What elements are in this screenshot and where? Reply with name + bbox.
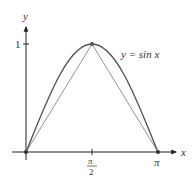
y-tick-label-1: 1 — [15, 38, 21, 50]
sine-curve — [26, 44, 158, 152]
sine-diagram: y x 1 π 2 π y = sin x — [0, 0, 195, 179]
x-axis-label: x — [180, 146, 186, 158]
x-tick-label-pi: π — [154, 156, 160, 168]
x-tick-label-half-pi-den: 2 — [89, 167, 94, 177]
point-origin — [24, 150, 28, 154]
point-peak — [90, 42, 94, 46]
curve-label: y = sin x — [120, 48, 159, 60]
x-tick-label-half-pi-num: π — [88, 156, 93, 166]
point-pi — [156, 150, 160, 154]
chord-lines — [26, 44, 158, 152]
y-axis-label: y — [22, 10, 28, 22]
